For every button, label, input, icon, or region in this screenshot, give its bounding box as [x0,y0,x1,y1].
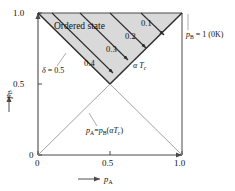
y-axis-title-subscript: B [7,90,13,94]
x-axis-title: pA [104,175,113,185]
pb-equals-one-label: pB = 1 (0K) [186,31,223,40]
diag-paren-close: ) [120,126,123,135]
ordered-state-label: Ordered state [54,22,105,32]
tc-subscript: c [144,65,147,71]
contour-label-01: 0.1 [141,19,152,28]
y-axis-title: pB [3,78,14,110]
pa-equals-pb-label: pA=pB(αTc) [86,127,123,136]
contour-label-02: 0.2 [125,32,136,41]
x-tick-label-0: 0 [35,159,40,168]
delta-symbol: δ [42,66,46,75]
x-axis-title-subscript: A [108,179,112,185]
pa-equals-pb-line [38,84,110,155]
y-axis-title-symbol: p [3,94,13,98]
diagonal-label-leader [89,113,97,126]
figure-container: 1.0 0.5 0 0 0.5 1.0 pA pB Ordered state … [0,0,235,191]
x-tick-label-05: 0.5 [102,159,113,168]
delta-label-leader [57,53,66,66]
alpha-tc-label: α Tc [133,62,146,71]
contour-label-03: 0.3 [106,45,117,54]
alpha-symbol: α [133,61,137,70]
delta-label: δ = 0.5 [42,67,64,75]
y-axis-title-container: pB [1,78,15,112]
lower-right-diagonal-line [110,84,182,155]
contour-label-04: 0.4 [84,59,95,68]
y-tick-label-1: 1.0 [13,9,24,18]
x-tick-label-1: 1.0 [174,159,185,168]
y-tick-label-0: 0 [29,151,34,160]
pb-one-subscript: B [190,34,194,40]
delta-value: = 0.5 [48,66,65,75]
pb-one-rest: = 1 (0K) [196,30,224,39]
